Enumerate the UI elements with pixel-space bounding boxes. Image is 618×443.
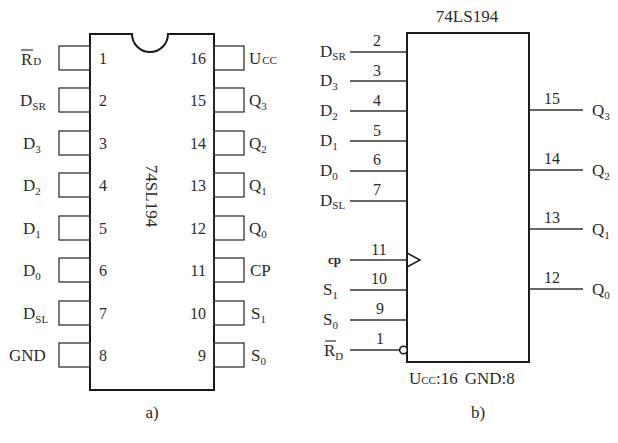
svg-text:DSR: DSR: [320, 42, 346, 62]
svg-text:14: 14: [190, 135, 206, 152]
output-pin-numbers: 15 14 13 12: [544, 90, 560, 286]
svg-text:DSR: DSR: [20, 91, 46, 112]
svg-text:1: 1: [99, 50, 107, 67]
svg-text:Q3: Q3: [249, 91, 267, 112]
power-note: UCC:16GND:8: [409, 369, 515, 388]
svg-text:3: 3: [373, 62, 381, 79]
svg-text:RD: RD: [21, 50, 41, 69]
svg-text:cp: cp: [328, 252, 341, 267]
dip-package: 1 2 3 4 5 6 7 8 16 15 14 13 12 11 10 9 7…: [9, 34, 277, 422]
svg-text:15: 15: [544, 90, 560, 107]
svg-text:16: 16: [190, 50, 206, 67]
svg-text:Q2: Q2: [249, 134, 267, 155]
dip-right-pin-numbers: 16 15 14 13 12 11 10 9: [190, 50, 206, 364]
dip-right-pin-boxes: [214, 46, 244, 367]
svg-text:12: 12: [544, 269, 560, 286]
svg-text:4: 4: [373, 92, 381, 109]
svg-text:9: 9: [376, 300, 384, 317]
caption-a: a): [145, 403, 158, 422]
svg-text:2: 2: [99, 92, 107, 109]
svg-text:Q0: Q0: [592, 280, 610, 301]
svg-text:15: 15: [190, 92, 206, 109]
svg-text:13: 13: [544, 209, 560, 226]
svg-text:D3: D3: [320, 71, 338, 92]
svg-text:6: 6: [373, 151, 381, 168]
svg-text:Q3: Q3: [592, 101, 610, 122]
clock-triangle-icon: [407, 253, 420, 267]
svg-text:D0: D0: [320, 161, 338, 182]
svg-text:S0: S0: [251, 346, 266, 367]
svg-text:11: 11: [371, 241, 386, 258]
svg-text:D3: D3: [23, 134, 41, 155]
svg-text:10: 10: [371, 270, 387, 287]
svg-text:D2: D2: [23, 176, 41, 197]
svg-text:4: 4: [99, 177, 107, 194]
logic-symbol: 74LS194 2 3 4: [320, 7, 610, 422]
svg-text:D2: D2: [320, 101, 338, 122]
svg-text:Q0: Q0: [249, 219, 267, 240]
svg-text:DSL: DSL: [320, 191, 345, 211]
svg-text:UCC: UCC: [249, 49, 277, 68]
input-pin-numbers: 2 3 4 5 6 7 11 10 9 1: [371, 32, 387, 347]
svg-text:8: 8: [99, 347, 107, 364]
output-names: Q3 Q2 Q1 Q0: [592, 101, 610, 301]
svg-text:6: 6: [99, 262, 107, 279]
svg-text:S0: S0: [323, 310, 338, 331]
logic-symbol-body: [407, 33, 529, 362]
svg-text:7: 7: [99, 305, 107, 322]
svg-text:14: 14: [544, 150, 560, 167]
svg-text:5: 5: [373, 122, 381, 139]
caption-b: b): [471, 403, 485, 422]
svg-text:Q1: Q1: [592, 220, 610, 241]
svg-text:5: 5: [99, 220, 107, 237]
svg-text:S1: S1: [251, 304, 266, 325]
inversion-bubble-icon: [400, 346, 408, 354]
svg-text:10: 10: [190, 305, 206, 322]
svg-text:11: 11: [191, 262, 206, 279]
output-lines: [529, 110, 583, 289]
svg-text:CP: CP: [250, 261, 271, 280]
svg-text:D1: D1: [320, 131, 338, 152]
svg-text:Q1: Q1: [249, 176, 267, 197]
svg-text:7: 7: [373, 181, 381, 198]
svg-text:3: 3: [99, 135, 107, 152]
svg-text:RD: RD: [324, 341, 343, 362]
dip-left-pin-numbers: 1 2 3 4 5 6 7 8: [99, 50, 107, 364]
logic-symbol-title: 74LS194: [436, 7, 499, 26]
svg-text:DSL: DSL: [23, 304, 48, 325]
dip-right-pin-names: UCC Q3 Q2 Q1 Q0 CP S1 S0: [249, 49, 277, 367]
svg-text:12: 12: [190, 220, 206, 237]
svg-text:13: 13: [190, 177, 206, 194]
svg-text:S1: S1: [323, 280, 338, 301]
svg-text:9: 9: [198, 347, 206, 364]
svg-text:GND: GND: [9, 346, 46, 365]
svg-text:2: 2: [373, 32, 381, 49]
svg-text:1: 1: [376, 330, 384, 347]
svg-text:D1: D1: [23, 219, 41, 240]
diagram-canvas: 1 2 3 4 5 6 7 8 16 15 14 13 12 11 10 9 7…: [0, 0, 618, 443]
dip-left-pin-boxes: [59, 46, 90, 367]
svg-text:D0: D0: [23, 261, 41, 282]
svg-text:Q2: Q2: [592, 161, 610, 182]
dip-chip-label: 74SL194: [142, 165, 161, 228]
input-names: DSR D3 D2 D1 D0 DSL cp S1 S0 RD: [320, 42, 346, 362]
dip-left-pin-names: RD DSR D3 D2 D1 D0 DSL GND: [9, 50, 48, 365]
